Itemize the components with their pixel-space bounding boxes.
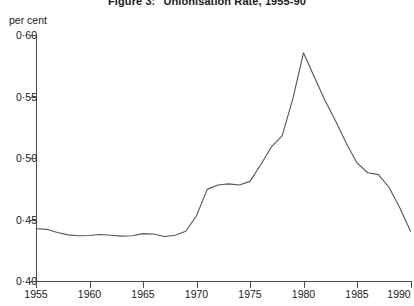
unionisation-rate-line xyxy=(36,53,411,237)
plot-area: 0·60 0·55 0·50 0·45 0·40 1955 1960 1965 … xyxy=(0,0,414,306)
figure-container: Figure 3:Unionisation Rate, 1955-90 per … xyxy=(0,0,414,306)
series-line-chart xyxy=(0,0,414,306)
